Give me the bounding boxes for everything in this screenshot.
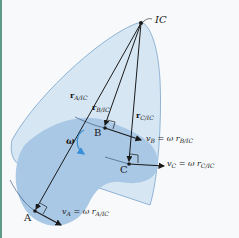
v-c-eq-subscript: C/IC xyxy=(201,162,215,169)
v-b-label: vB = ω rB/IC xyxy=(146,135,193,144)
v-c-equation: = ω r xyxy=(176,159,201,168)
point-b-label: B xyxy=(94,128,101,138)
v-a-label: vA = ω rA/IC xyxy=(62,208,109,217)
kinematics-figure xyxy=(0,0,239,238)
ic-point xyxy=(139,21,143,25)
diagram-frame: IC A B C rA/IC rB/IC rC/IC vA = ω rA/IC … xyxy=(0,0,239,238)
point-a-label: A xyxy=(24,213,31,223)
ic-label: IC xyxy=(155,15,167,25)
r-a-ic-label: rA/IC xyxy=(70,91,88,101)
v-a-eq-subscript: A/IC xyxy=(96,210,109,217)
r-c-ic-label: rC/IC xyxy=(136,111,154,121)
r-b-ic-label: rB/IC xyxy=(92,103,110,113)
r-b-subscript: B/IC xyxy=(96,106,109,113)
r-a-subscript: A/IC xyxy=(74,94,87,101)
point-c-label: C xyxy=(120,165,128,175)
omega-label: ω xyxy=(66,137,75,146)
v-b-equation: = ω r xyxy=(155,134,180,143)
r-c-subscript: C/IC xyxy=(140,114,154,121)
v-a-equation: = ω r xyxy=(71,207,96,216)
v-c-label: vC = ω rC/IC xyxy=(167,160,214,169)
v-b-eq-subscript: B/IC xyxy=(180,137,193,144)
ic-leader xyxy=(143,19,152,22)
